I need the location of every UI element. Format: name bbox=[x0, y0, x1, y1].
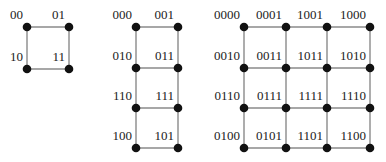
vertex-label: 0101 bbox=[256, 128, 282, 143]
vertex-node bbox=[282, 104, 291, 113]
vertex-node bbox=[366, 104, 375, 113]
vertex-label: 0111 bbox=[257, 88, 282, 103]
vertex-node bbox=[282, 23, 291, 32]
vertex-node bbox=[132, 64, 141, 73]
vertex-node bbox=[366, 23, 375, 32]
vertex-label: 1000 bbox=[340, 7, 366, 22]
vertex-label: 1110 bbox=[341, 88, 366, 103]
vertex-label: 0100 bbox=[214, 128, 240, 143]
vertex-node bbox=[174, 23, 183, 32]
grid-3-bit: 000001010011110111100101 bbox=[113, 7, 183, 152]
vertex-node bbox=[282, 144, 291, 153]
vertex-node bbox=[132, 104, 141, 113]
vertex-node bbox=[174, 64, 183, 73]
vertex-label: 0010 bbox=[214, 48, 240, 63]
vertex-label: 011 bbox=[155, 48, 174, 63]
gray-code-diagram: 0001101100000101001111011110010100000001… bbox=[0, 0, 386, 162]
vertex-label: 0110 bbox=[214, 88, 240, 103]
vertex-label: 01 bbox=[52, 7, 65, 22]
vertex-node bbox=[132, 23, 141, 32]
vertex-node bbox=[23, 23, 32, 32]
vertex-label: 001 bbox=[155, 7, 175, 22]
vertex-node bbox=[174, 104, 183, 113]
vertex-node bbox=[65, 65, 74, 74]
vertex-label: 1010 bbox=[340, 48, 366, 63]
vertex-node bbox=[282, 64, 291, 73]
vertex-node bbox=[174, 144, 183, 153]
vertex-node bbox=[366, 144, 375, 153]
grid-4-bit: 0000000110011000001000111011101001100111… bbox=[214, 7, 374, 152]
vertex-node bbox=[323, 23, 332, 32]
vertex-label: 1111 bbox=[298, 88, 323, 103]
vertex-label: 010 bbox=[113, 48, 133, 63]
vertex-node bbox=[323, 64, 332, 73]
vertex-label: 10 bbox=[10, 49, 23, 64]
vertex-node bbox=[240, 144, 249, 153]
vertex-label: 1100 bbox=[340, 128, 366, 143]
vertex-label: 00 bbox=[10, 7, 23, 22]
vertex-node bbox=[323, 104, 332, 113]
vertex-label: 0001 bbox=[256, 7, 282, 22]
vertex-label: 000 bbox=[113, 7, 133, 22]
vertex-node bbox=[65, 23, 74, 32]
vertex-node bbox=[240, 23, 249, 32]
vertex-label: 0000 bbox=[214, 7, 240, 22]
vertex-node bbox=[240, 104, 249, 113]
vertex-node bbox=[23, 65, 32, 74]
vertex-node bbox=[366, 64, 375, 73]
grid-2-bit: 00011011 bbox=[10, 7, 73, 73]
vertex-label: 100 bbox=[113, 128, 133, 143]
vertex-label: 110 bbox=[113, 88, 132, 103]
vertex-node bbox=[132, 144, 141, 153]
vertex-label: 1011 bbox=[297, 48, 323, 63]
vertex-label: 101 bbox=[155, 128, 175, 143]
vertex-label: 111 bbox=[155, 88, 174, 103]
vertex-node bbox=[323, 144, 332, 153]
vertex-node bbox=[240, 64, 249, 73]
vertex-label: 11 bbox=[52, 49, 65, 64]
vertex-label: 0011 bbox=[256, 48, 282, 63]
vertex-label: 1001 bbox=[297, 7, 323, 22]
vertex-label: 1101 bbox=[297, 128, 323, 143]
